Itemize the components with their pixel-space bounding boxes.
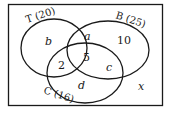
region-outside: x	[138, 80, 145, 93]
region-c-only: d	[78, 79, 85, 92]
region-t-only: b	[45, 35, 52, 48]
region-b-and-c: c	[106, 61, 112, 74]
region-t-b-c: 5	[83, 51, 90, 64]
region-t-and-c: 2	[58, 59, 65, 72]
region-b-only: 10	[117, 34, 131, 47]
region-t-and-b: a	[84, 30, 91, 43]
set-c-label: C (16)	[42, 84, 75, 104]
venn-diagram: T (20) B (25) C (16) b a 10 2 5 c d x	[0, 0, 169, 114]
